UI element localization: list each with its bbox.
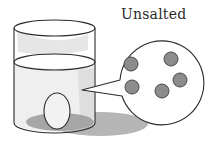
unsalted-egg-illustration [0, 0, 208, 150]
condition-label: Unsalted [121, 6, 186, 22]
particle-icon [124, 57, 138, 71]
particle-icon [155, 84, 169, 98]
particle-icon [125, 80, 139, 94]
glass-rim [14, 20, 95, 36]
water-shading [78, 68, 94, 118]
egg [44, 93, 70, 129]
particle-icon [164, 52, 178, 66]
particle-icon [173, 73, 187, 87]
water-surface [14, 54, 95, 70]
